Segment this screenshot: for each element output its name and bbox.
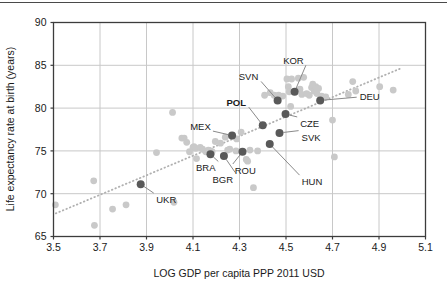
data-point bbox=[238, 129, 245, 136]
leader-line-ukr bbox=[144, 187, 154, 194]
point-label-kor: KOR bbox=[283, 55, 304, 66]
point-label-hun: HUN bbox=[302, 176, 323, 187]
data-point bbox=[329, 117, 336, 124]
x-tick-label: 5.1 bbox=[418, 241, 433, 253]
x-tick-labels: 3.53.73.94.14.34.54.74.95.1 bbox=[46, 241, 433, 253]
data-point bbox=[244, 158, 251, 165]
highlighted-point-rou bbox=[239, 148, 247, 156]
highlighted-point-svk bbox=[275, 129, 283, 137]
x-tick-label: 3.5 bbox=[46, 241, 61, 253]
x-tick-label: 4.7 bbox=[325, 241, 340, 253]
trendline-path bbox=[56, 69, 400, 214]
y-axis-title: Life expectancy rate at birth (years) bbox=[4, 47, 16, 212]
y-tick-label: 80 bbox=[35, 102, 47, 114]
data-point bbox=[183, 139, 190, 146]
data-point bbox=[349, 78, 356, 85]
highlighted-point-bra bbox=[206, 150, 214, 158]
x-tick-label: 4.5 bbox=[279, 241, 294, 253]
point-label-cze: CZE bbox=[300, 118, 319, 129]
data-point bbox=[287, 103, 294, 110]
y-tick-label: 75 bbox=[35, 145, 47, 157]
highlighted-point-bgr bbox=[220, 152, 228, 160]
data-point bbox=[226, 146, 233, 153]
highlighted-point-ukr bbox=[137, 180, 145, 188]
highlighted-point-pol bbox=[259, 121, 267, 129]
data-point bbox=[109, 206, 116, 213]
point-label-svk: SVK bbox=[302, 132, 322, 143]
data-point bbox=[247, 147, 254, 154]
highlighted-point-hun bbox=[266, 140, 274, 148]
data-point bbox=[376, 83, 383, 90]
leader-line-cze bbox=[289, 115, 297, 117]
chart-figure: UKRBRABGRMEXROUPOLHUNSVNSVKCZEKORDEU 3.5… bbox=[0, 0, 447, 292]
point-label-pol: POL bbox=[226, 97, 246, 108]
data-point bbox=[169, 109, 176, 116]
scatter-plot: UKRBRABGRMEXROUPOLHUNSVNSVKCZEKORDEU 3.5… bbox=[0, 0, 447, 292]
data-point bbox=[250, 184, 257, 191]
y-tick-label: 70 bbox=[35, 188, 47, 200]
leader-line-pol bbox=[249, 107, 261, 122]
x-axis-title: LOG GDP per capita PPP 2011 USD bbox=[153, 267, 324, 279]
highlighted-point-kor bbox=[291, 88, 299, 96]
data-point bbox=[153, 149, 160, 156]
x-tick-label: 3.9 bbox=[139, 241, 154, 253]
data-point bbox=[345, 91, 352, 98]
data-point bbox=[390, 87, 397, 94]
highlighted-point-deu bbox=[316, 96, 324, 104]
data-point bbox=[288, 76, 295, 83]
point-label-ukr: UKR bbox=[156, 194, 176, 205]
point-label-mex: MEX bbox=[190, 121, 211, 132]
point-labels: UKRBRABGRMEXROUPOLHUNSVNSVKCZEKORDEU bbox=[156, 55, 380, 206]
point-label-svn: SVN bbox=[239, 71, 259, 82]
highlighted-point-mex bbox=[228, 131, 236, 139]
x-tick-label: 4.1 bbox=[186, 241, 201, 253]
y-tick-labels: 657075808590 bbox=[35, 16, 47, 242]
data-point bbox=[217, 140, 224, 147]
data-point bbox=[233, 148, 240, 155]
y-tick-label: 90 bbox=[35, 16, 47, 28]
data-point bbox=[91, 222, 98, 229]
data-point bbox=[315, 85, 322, 92]
point-label-rou: ROU bbox=[235, 165, 256, 176]
data-point bbox=[331, 153, 338, 160]
trendline bbox=[56, 69, 400, 214]
leader-line-rou bbox=[233, 155, 240, 164]
data-point bbox=[123, 201, 130, 208]
highlighted-point-svn bbox=[274, 96, 282, 104]
x-tick-label: 3.7 bbox=[93, 241, 108, 253]
x-tick-label: 4.3 bbox=[232, 241, 247, 253]
point-label-bgr: BGR bbox=[212, 174, 233, 185]
y-tick-label: 65 bbox=[35, 230, 47, 242]
data-point bbox=[352, 88, 359, 95]
data-point bbox=[193, 155, 200, 162]
leader-line-bra bbox=[213, 157, 218, 161]
point-label-bra: BRA bbox=[196, 162, 216, 173]
point-label-deu: DEU bbox=[360, 91, 380, 102]
y-tick-label: 85 bbox=[35, 59, 47, 71]
x-tick-label: 4.9 bbox=[372, 241, 387, 253]
data-point bbox=[254, 148, 261, 155]
data-point bbox=[90, 177, 97, 184]
leader-line-mex bbox=[213, 131, 228, 134]
highlighted-point-cze bbox=[282, 110, 290, 118]
